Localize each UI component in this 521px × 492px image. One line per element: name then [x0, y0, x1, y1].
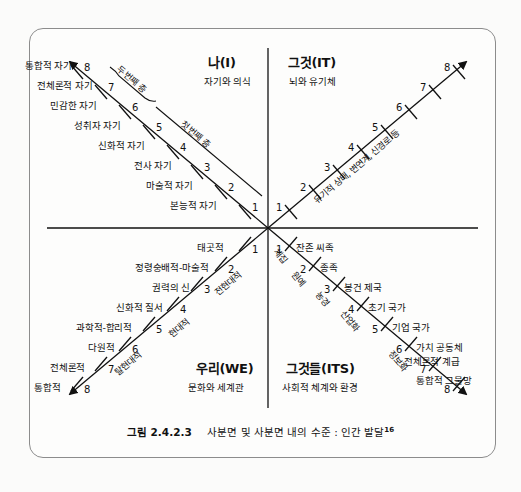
- level-number: 4: [180, 304, 186, 315]
- level-label: 전체론적 자기: [37, 81, 93, 92]
- level-number: 5: [156, 122, 162, 133]
- level-label: 초기 국가: [368, 303, 406, 314]
- level-number: 5: [156, 324, 162, 335]
- level-label: 마술적 자기: [146, 181, 193, 192]
- level-number: 6: [132, 102, 138, 113]
- level-label: 전사 자기: [134, 161, 172, 172]
- level-label: 봉건 제국: [344, 283, 382, 294]
- level-label: 민감한 자기: [50, 101, 97, 112]
- quadrant-subtitle-upper-right: 뇌와 유기체: [289, 74, 336, 88]
- level-label: 기업 국가: [392, 323, 430, 334]
- level-number: 8: [84, 384, 90, 395]
- quadrant-title-lower-right: 그것들(ITS): [286, 358, 355, 377]
- level-label: 잔존 씨족: [296, 243, 334, 254]
- level-number: 8: [84, 62, 90, 73]
- level-label: 권력의 신: [152, 283, 190, 294]
- level-number: 8: [444, 62, 450, 73]
- quadrant-subtitle-upper-left: 자기와 의식: [204, 74, 251, 88]
- level-number: 6: [396, 102, 402, 113]
- level-label: 본능적 자기: [170, 201, 217, 212]
- level-number: 3: [324, 162, 330, 173]
- level-number: 2: [228, 182, 234, 193]
- level-label: 전체론적 계급: [404, 357, 460, 368]
- level-number: 7: [420, 82, 426, 93]
- level-number: 3: [204, 284, 210, 295]
- level-label: 다원적: [88, 343, 114, 354]
- figure-caption-superscript: 16: [384, 426, 394, 434]
- level-label: 신화적 자기: [98, 141, 145, 152]
- level-label: 가치 공동체: [416, 343, 463, 354]
- quadrant-title-upper-right: 그것(IT): [288, 52, 336, 71]
- level-label: 과학적-합리적: [76, 323, 132, 334]
- level-number: 4: [348, 142, 354, 153]
- level-number: 3: [204, 162, 210, 173]
- level-number: 7: [108, 82, 114, 93]
- level-label: 태곳적: [197, 243, 223, 254]
- figure-caption-number: 그림 2.4.2.3: [127, 426, 192, 438]
- level-label: 성취자 자기: [74, 121, 121, 132]
- level-number: 1: [252, 244, 258, 255]
- level-label: 통합적 자기: [25, 61, 72, 72]
- level-label: 신화적 질서: [116, 303, 163, 314]
- quadrant-title-upper-left: 나(I): [208, 52, 236, 71]
- level-label: 전체론적: [50, 363, 85, 374]
- level-number: 1: [252, 202, 258, 213]
- level-number: 2: [300, 182, 306, 193]
- quadrant-title-lower-left: 우리(WE): [196, 358, 253, 377]
- quadrant-subtitle-lower-left: 문화와 세계관: [188, 380, 244, 394]
- level-label: 통합적: [34, 383, 60, 394]
- level-label: 종족: [320, 263, 338, 274]
- level-number: 5: [372, 122, 378, 133]
- quadrant-subtitle-lower-right: 사회적 체계와 환경: [282, 380, 358, 394]
- level-label: 통합적 그물망: [416, 376, 472, 387]
- figure-caption: 그림 2.4.2.3 사분면 및 사분면 내의 수준 : 인간 발달16: [0, 424, 521, 439]
- level-number: 5: [372, 324, 378, 335]
- diagram-lines: [0, 0, 521, 492]
- level-number: 1: [276, 202, 282, 213]
- level-label: 정령숭배적-마술적: [135, 263, 209, 274]
- level-number: 4: [180, 142, 186, 153]
- figure-caption-text: 사분면 및 사분면 내의 수준 : 인간 발달: [207, 426, 384, 438]
